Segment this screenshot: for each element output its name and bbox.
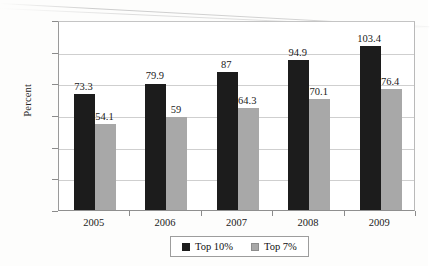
x-axis-tick-label: 2009 — [349, 217, 409, 228]
bar-2006-series-1 — [166, 117, 187, 210]
x-axis-tick — [272, 211, 273, 216]
legend-item-0: Top 10% — [182, 241, 233, 252]
x-axis-tick-label: 2007 — [207, 217, 267, 228]
x-axis-tick — [415, 211, 416, 216]
bar-value-label: 54.1 — [84, 112, 126, 123]
x-axis-tick — [201, 211, 202, 216]
bar-value-label: 76.4 — [369, 77, 411, 88]
bar-2008-series-1 — [309, 99, 330, 210]
bar-2009-series-0 — [360, 46, 381, 210]
chart-legend: Top 10%Top 7% — [170, 236, 309, 257]
dark-square-swatch — [182, 243, 190, 251]
x-axis-tick-label: 2005 — [64, 217, 124, 228]
bar-value-label: 79.9 — [134, 71, 176, 82]
bar-value-label: 64.3 — [226, 96, 268, 107]
bar-value-label: 87 — [205, 60, 247, 71]
gray-square-swatch — [251, 243, 259, 251]
bar-2009-series-1 — [381, 89, 402, 210]
bar-value-label: 73.3 — [63, 82, 105, 93]
bar-value-label: 94.9 — [277, 48, 319, 59]
bar-2006-series-0 — [145, 84, 166, 211]
bar-value-label: 59 — [155, 105, 197, 116]
x-axis-tick-label: 2008 — [278, 217, 338, 228]
bar-2007-series-1 — [238, 108, 259, 210]
legend-item-1: Top 7% — [251, 241, 297, 252]
bar-2007-series-0 — [217, 72, 238, 210]
bar-2005-series-1 — [95, 124, 116, 210]
bar-value-label: 103.4 — [348, 34, 390, 45]
bar-value-label: 70.1 — [298, 87, 340, 98]
x-axis-tick — [344, 211, 345, 216]
y-axis-title: Percent — [23, 60, 34, 140]
x-axis-tick — [129, 211, 130, 216]
legend-label: Top 7% — [264, 241, 297, 252]
y-axis-tick — [52, 211, 58, 212]
legend-label: Top 10% — [195, 241, 233, 252]
x-axis-tick-label: 2006 — [135, 217, 195, 228]
bar-2008-series-0 — [288, 60, 309, 210]
